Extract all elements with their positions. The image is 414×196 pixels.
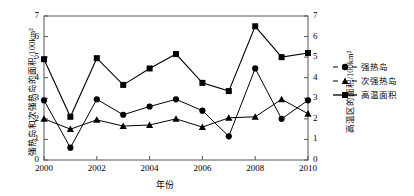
data-point-circle	[252, 65, 258, 71]
legend-item-ciqiangredao[interactable]: 次强热岛	[332, 74, 397, 88]
data-point-square	[67, 114, 73, 120]
y-axis-left-tick-label: 6	[25, 31, 39, 41]
data-point-circle	[173, 96, 179, 102]
data-point-triangle	[93, 116, 100, 123]
data-point-circle	[226, 133, 232, 139]
y-axis-left-tick-label: 1	[25, 133, 39, 143]
y-axis-right-tick-label: 2	[313, 113, 327, 123]
x-axis-tick-label: 2002	[77, 163, 117, 173]
x-axis-tick-label: 2006	[182, 163, 222, 173]
triangle-marker-icon	[332, 74, 358, 88]
legend-item-gaowenmianji[interactable]: 高温面积	[332, 88, 397, 102]
x-axis-title: 年份	[0, 178, 330, 191]
data-point-triangle	[172, 115, 179, 122]
y-axis-left-tick-label: 7	[25, 10, 39, 20]
x-axis-tick-label: 2008	[235, 163, 275, 173]
y-axis-left-tick-label: 5	[25, 51, 39, 61]
data-point-square	[199, 80, 205, 86]
data-point-square	[305, 50, 311, 56]
data-point-triangle	[278, 96, 285, 103]
data-point-square	[147, 65, 153, 71]
data-point-circle	[94, 96, 100, 102]
x-axis-tick-label: 2004	[130, 163, 170, 173]
y-axis-right-tick-label: 6	[313, 31, 327, 41]
y-axis-right-tick-label: 7	[313, 10, 327, 20]
data-point-circle	[279, 116, 285, 122]
data-point-square	[173, 51, 179, 57]
data-point-circle	[199, 108, 205, 114]
y-axis-right-tick-label: 1	[313, 133, 327, 143]
circle-marker-icon	[332, 60, 358, 74]
series-2	[41, 23, 311, 120]
data-point-square	[120, 82, 126, 88]
y-axis-left-tick-label: 2	[25, 113, 39, 123]
x-axis-tick-label: 2010	[288, 163, 328, 173]
data-point-square	[94, 55, 100, 61]
y-axis-left-tick-label: 4	[25, 72, 39, 82]
data-point-square	[41, 56, 47, 62]
x-axis-tick-label: 2000	[24, 163, 64, 173]
y-axis-right-tick-label: 3	[313, 92, 327, 102]
y-axis-right-tick-label: 4	[313, 72, 327, 82]
legend-label-ciqiangredao: 次强热岛	[358, 74, 397, 88]
data-point-square	[226, 88, 232, 94]
y-axis-right-tick-label: 5	[313, 51, 327, 61]
data-point-circle	[305, 97, 311, 103]
legend-label-qiangredao: 强热岛	[358, 60, 388, 74]
legend-item-qiangredao[interactable]: 强热岛	[332, 60, 397, 74]
legend-label-gaowenmianji: 高温面积	[358, 88, 397, 102]
data-point-square	[279, 54, 285, 60]
data-point-circle	[67, 145, 73, 151]
chart-container: 强热岛和次强热岛的面积/100km² 高温区的面积/100km² 年份 0123…	[0, 0, 414, 196]
square-marker-icon	[332, 88, 358, 102]
data-point-triangle	[304, 110, 311, 117]
data-point-circle	[120, 112, 126, 118]
data-point-triangle	[67, 126, 74, 133]
data-point-circle	[147, 103, 153, 109]
data-point-circle	[41, 97, 47, 103]
series-0	[41, 65, 311, 150]
data-point-square	[252, 23, 258, 29]
y-axis-left-tick-label: 3	[25, 92, 39, 102]
chart-legend: 强热岛 次强热岛 高温面积	[332, 60, 397, 102]
